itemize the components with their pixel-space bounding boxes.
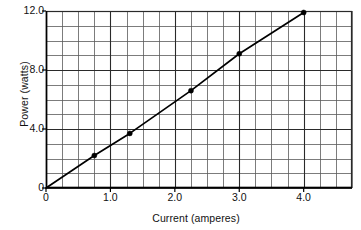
x-axis-title: Current (amperes) — [46, 212, 346, 224]
chart-figure: Power (watts) Current (amperes) 04.08.01… — [0, 0, 361, 230]
minor-gridlines — [46, 11, 353, 188]
major-gridlines — [46, 11, 352, 189]
plot-svg — [38, 9, 360, 198]
axis-frame — [42, 11, 352, 192]
plot-area — [46, 11, 352, 188]
y-axis-title: Power (watts) — [18, 24, 30, 164]
